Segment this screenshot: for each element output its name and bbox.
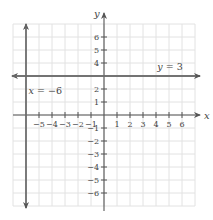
x-tick-label: −2 [72,120,84,129]
y-tick-label: −2 [87,137,99,146]
x-tick-label: 5 [166,120,171,129]
labels: y = 3x = −6xy [29,8,210,121]
x-tick-label: −3 [59,120,71,129]
axes [13,13,200,211]
y-tick-label: −4 [87,163,99,172]
y-tick-label: −1 [87,124,99,133]
y-tick-label: 4 [94,59,99,68]
x-tick-label: 6 [179,120,184,129]
y-tick-label: 1 [94,98,99,107]
x-tick-label: 3 [140,120,145,129]
x-tick-label: −5 [33,120,45,129]
y-tick-label: −5 [87,176,99,185]
y-tick-label: −6 [87,189,99,198]
coordinate-plane: −5−4−3−2−1123456−6−5−4−3−2−112456 y = 3x… [0,0,213,220]
y-tick-label: 6 [94,33,99,42]
y-tick-label: 2 [94,85,99,94]
equation-label: y = 3 [156,61,182,72]
y-tick-label: −3 [87,150,99,159]
x-tick-label: 4 [153,120,158,129]
y-tick-label: 5 [94,46,99,55]
x-tick-label: 2 [127,120,132,129]
x-tick-label: 1 [114,120,119,129]
equation-label: x = −6 [29,85,62,96]
x-tick-label: −4 [46,120,58,129]
x-axis-label: x [204,110,210,121]
y-axis-label: y [93,8,100,19]
